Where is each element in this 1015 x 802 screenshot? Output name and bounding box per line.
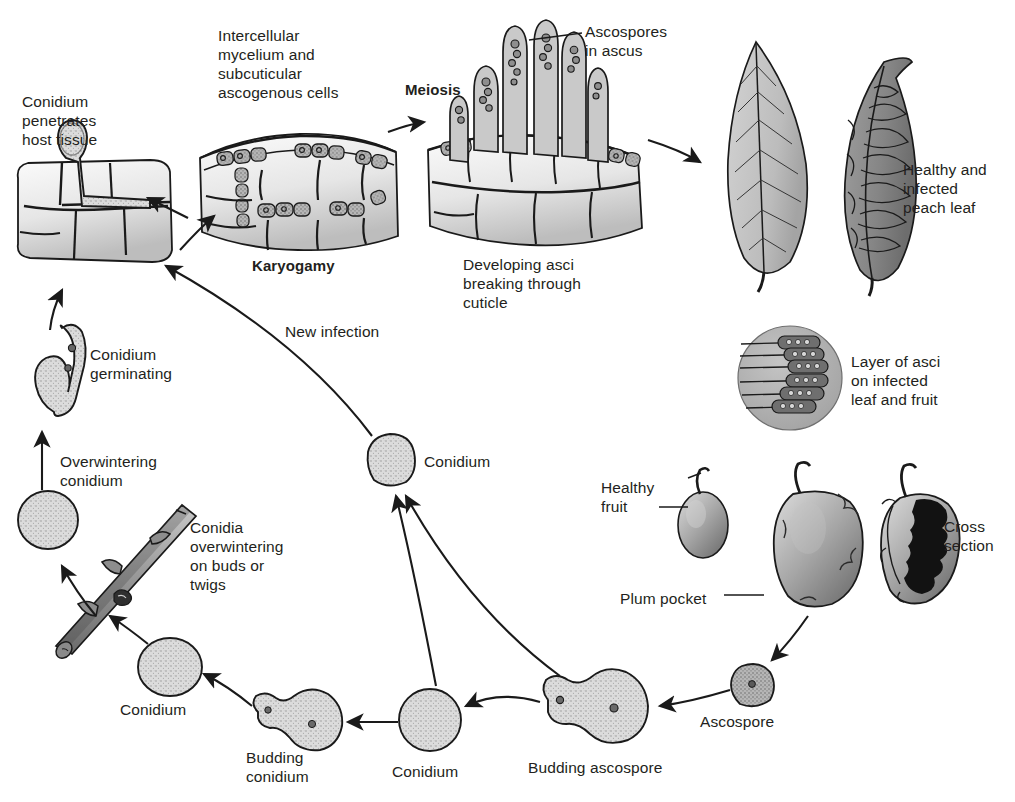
cycle-arrows [42, 122, 808, 722]
label-new-infection: New infection [285, 322, 379, 341]
label-cross-section: Cross section [944, 517, 994, 555]
label-ascospore: Ascospore [700, 712, 774, 731]
label-conidium-penetrates: Conidium penetrates host tissue [22, 92, 97, 149]
budding-conidium-illustration [253, 689, 342, 750]
label-layer-of-asci: Layer of asci on infected leaf and fruit [851, 352, 940, 409]
arrow-fruit-to-ascospore [772, 616, 808, 660]
disease-cycle-diagram: Conidium penetrates host tissueIntercell… [0, 0, 1015, 802]
fruit-illustration [659, 462, 960, 606]
label-developing-asci: Developing asci breaking through cuticle [463, 255, 581, 312]
arrow-to-asci [388, 122, 424, 132]
conidium-lower-left-illustration [138, 638, 202, 696]
budding-ascospore-illustration [543, 669, 648, 743]
asci-layer-illustration [738, 326, 842, 430]
arrow-twig-to-overwinter [62, 566, 96, 616]
arrow-bottom-to-center [396, 496, 436, 686]
label-ascospores-in-ascus: Ascospores in ascus [585, 22, 667, 60]
label-conidia-overwintering: Conidia overwintering on buds or twigs [190, 518, 283, 594]
label-budding-conidium: Budding conidium [246, 748, 309, 786]
label-conidium-lower-left: Conidium [120, 700, 186, 719]
label-meiosis: Meiosis [405, 80, 461, 99]
germinating-conidium-illustration [35, 325, 85, 416]
label-healthy-infected-leaf: Healthy and infected peach leaf [903, 160, 987, 217]
label-plum-pocket: Plum pocket [620, 589, 706, 608]
label-budding-ascospore: Budding ascospore [528, 758, 662, 777]
conidium-center-illustration [368, 434, 415, 486]
label-overwintering-conidium: Overwintering conidium [60, 452, 157, 490]
label-conidium-bottom: Conidium [392, 762, 458, 781]
twig-illustration [53, 505, 196, 661]
label-intercellular-mycelium: Intercellular mycelium and subcuticular … [218, 26, 339, 102]
arrow-conidium-to-twig [110, 616, 148, 644]
arrow-new-infection [166, 266, 372, 436]
label-karyogamy: Karyogamy [252, 256, 335, 275]
arrow-ascospore-to-budding [660, 690, 730, 706]
arrow-asci-to-leaf [648, 140, 700, 162]
arrow-buddingasco-to-conidium [466, 697, 540, 706]
label-conidium-germinating: Conidium germinating [90, 345, 172, 383]
label-conidium-center: Conidium [424, 452, 490, 471]
arrow-germ-to-penetrate [50, 290, 62, 330]
conidium-bottom-illustration [399, 689, 461, 751]
arrow-to-ascogenous [180, 216, 214, 250]
arrow-tissue-to-ascogenous [148, 198, 188, 218]
label-healthy-fruit: Healthy fruit [601, 478, 654, 516]
ascospore-illustration [731, 664, 774, 706]
peach-leaf-illustration [728, 42, 916, 296]
ascogenous-cells-illustration [200, 134, 398, 250]
overwintering-conidium-illustration [18, 491, 78, 549]
arrow-budding-to-conidium [204, 674, 252, 706]
arrow-to-center-conidium [406, 496, 560, 676]
